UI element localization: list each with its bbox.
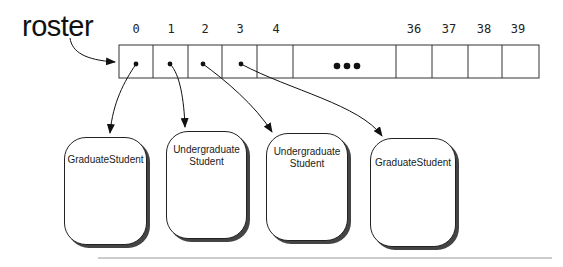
object-label-2: Undergraduate Student [267,146,347,170]
object-label-3: GraduateStudent [371,157,455,169]
object-box-1: Undergraduate Student [166,131,247,239]
object-box-3: GraduateStudent [370,138,456,247]
array-cells [119,45,539,78]
object-label-0: GraduateStudent [65,154,146,166]
object-box-0: GraduateStudent [64,137,147,245]
object-box-2: Undergraduate Student [266,133,348,241]
ellipsis-icon [334,63,361,70]
object-label-1: Undergraduate Student [167,144,246,168]
roster-arrow-icon [70,38,115,62]
